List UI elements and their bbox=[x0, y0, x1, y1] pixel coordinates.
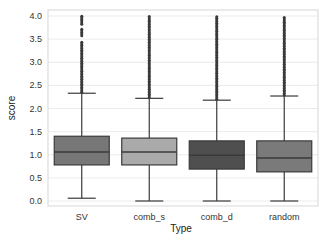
boxes bbox=[54, 15, 312, 201]
outlier-point bbox=[80, 15, 83, 18]
box-comb_s bbox=[122, 15, 177, 201]
y-axis-ticks: 0.00.51.01.52.02.53.03.54.0 bbox=[29, 11, 42, 206]
x-axis-label: Type bbox=[170, 223, 192, 234]
x-tick-label: SV bbox=[76, 212, 88, 222]
x-tick-label: comb_s bbox=[133, 212, 165, 222]
box-comb_d bbox=[189, 15, 244, 201]
y-tick-label: 0.5 bbox=[29, 173, 42, 183]
box-SV bbox=[54, 15, 109, 198]
y-tick-label: 4.0 bbox=[29, 11, 42, 21]
y-tick-label: 1.0 bbox=[29, 150, 42, 160]
x-tick-label: random bbox=[269, 212, 300, 222]
y-axis-label: score bbox=[6, 95, 17, 120]
grid-lines bbox=[48, 16, 318, 201]
y-tick-label: 3.5 bbox=[29, 34, 42, 44]
outlier-point bbox=[215, 15, 218, 18]
y-tick-label: 2.5 bbox=[29, 80, 42, 90]
outlier-point bbox=[80, 28, 83, 31]
outlier-point bbox=[148, 15, 151, 18]
iqr-box bbox=[257, 141, 312, 172]
outlier-point bbox=[80, 41, 83, 44]
iqr-box bbox=[54, 136, 109, 165]
y-tick-label: 1.5 bbox=[29, 127, 42, 137]
x-tick-label: comb_d bbox=[201, 212, 233, 222]
outlier-point bbox=[283, 16, 286, 19]
y-tick-label: 3.0 bbox=[29, 57, 42, 67]
box-plot-chart: 0.00.51.01.52.02.53.03.54.0 SVcomb_scomb… bbox=[0, 0, 333, 244]
y-tick-label: 2.0 bbox=[29, 104, 42, 114]
x-axis-ticks: SVcomb_scomb_drandom bbox=[76, 212, 300, 222]
y-tick-label: 0.0 bbox=[29, 196, 42, 206]
